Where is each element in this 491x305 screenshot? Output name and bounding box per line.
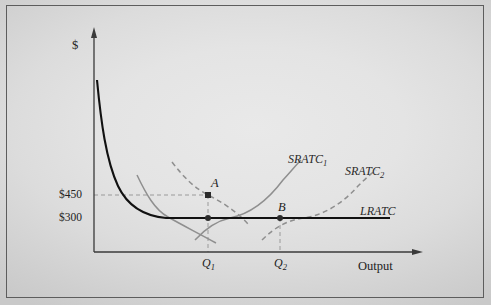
cost-curve-figure: $ $450 $300 Q1 Q2 Output SRATC1 SRATC2 L… (0, 0, 491, 305)
x-tick-label-q1-sub: 1 (211, 262, 215, 272)
y-axis-arrowhead (91, 27, 97, 38)
point-marker-b (277, 215, 283, 221)
x-tick-label-q1-base: Q (202, 256, 211, 270)
sratc-2-label-base: SRATC (345, 164, 380, 178)
y-axis-title: $ (72, 38, 78, 53)
point-marker-a (205, 192, 211, 198)
x-tick-label-q2: Q2 (274, 256, 287, 271)
point-marker-q1-on-lratc (205, 215, 211, 221)
lratc-label: LRATC (360, 204, 396, 219)
sratc-left-curve (137, 175, 216, 243)
x-axis-arrowhead (412, 249, 423, 255)
sratc-1-label: SRATC1 (288, 152, 327, 167)
sratc-2-label: SRATC2 (345, 164, 384, 179)
sratc-1-label-base: SRATC (288, 152, 323, 166)
x-tick-label-q2-sub: 2 (283, 262, 287, 272)
x-tick-label-q1: Q1 (202, 256, 215, 271)
point-label-a: A (211, 176, 219, 191)
sratc-1-label-sub: 1 (323, 158, 327, 168)
y-tick-label-300: $300 (59, 211, 82, 223)
x-axis-title: Output (358, 259, 393, 274)
x-tick-label-q2-base: Q (274, 256, 283, 270)
sratc-2-label-sub: 2 (380, 170, 384, 180)
y-tick-label-450: $450 (59, 188, 82, 200)
point-label-b: B (278, 200, 286, 215)
